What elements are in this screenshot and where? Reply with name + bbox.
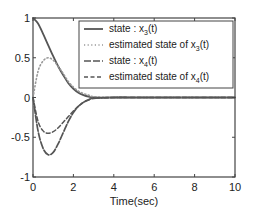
y-tick-label: -0.5 — [11, 131, 30, 143]
y-tick-label: 0.5 — [15, 52, 30, 64]
x-tick-label: 4 — [111, 181, 117, 193]
y-tick-label: -1 — [20, 171, 30, 183]
x-axis-title: Time(sec) — [110, 195, 158, 207]
x-tick-label: 0 — [30, 181, 36, 193]
y-tick-label: 0 — [24, 92, 30, 104]
line-chart: 024681010.50-0.5-1 Time(sec) state : x3(… — [0, 0, 253, 217]
legend: state : x3(t)estimated state of x3(t)sta… — [79, 21, 233, 88]
x-tick-label: 6 — [151, 181, 157, 193]
x-tick-label: 8 — [192, 181, 198, 193]
x-tick-label: 2 — [70, 181, 76, 193]
x-tick-label: 10 — [229, 181, 241, 193]
y-tick-label: 1 — [24, 12, 30, 24]
